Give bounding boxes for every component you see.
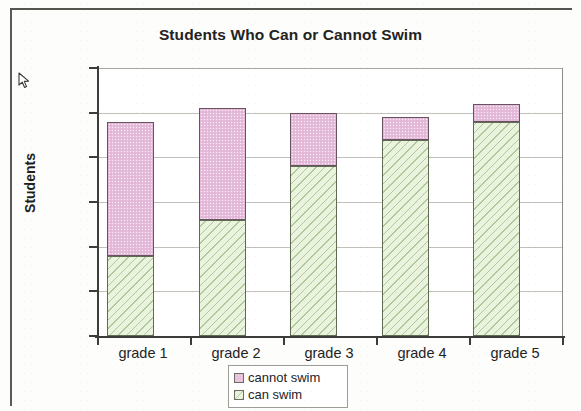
bar-segment-cannot-swim[interactable] [473,104,520,122]
y-tick-mark-30 [89,201,97,203]
bar-segment-can-swim[interactable] [290,166,337,336]
x-tick-mark-0 [97,338,99,345]
y-tick-mark-50 [89,112,97,114]
bar-segment-cannot-swim[interactable] [107,122,154,256]
x-tick-mark-5 [562,338,564,345]
chart-title: Students Who Can or Cannot Swim [0,26,581,44]
bar-grade-1[interactable] [107,122,154,336]
chart-legend: cannot swim can swim [228,365,348,408]
x-tick-mark-3 [376,338,378,345]
y-tick-mark-20 [89,246,97,248]
y-tick-mark-10 [89,290,97,292]
bar-segment-can-swim[interactable] [199,220,246,336]
plot-right-edge [562,68,563,336]
legend-item-can-swim[interactable]: can swim [234,386,342,403]
legend-label-cannot-swim: cannot swim [248,370,320,385]
x-tick-label-grade-5: grade 5 [460,345,570,361]
bar-segment-cannot-swim[interactable] [199,108,246,220]
scanned-page: Students Who Can or Cannot Swim [0,0,581,411]
x-tick-mark-4 [469,338,471,345]
x-tick-mark-1 [190,338,192,345]
bar-segment-cannot-swim[interactable] [382,117,429,139]
bar-segment-cannot-swim[interactable] [290,113,337,167]
x-tick-mark-2 [283,338,285,345]
y-tick-mark-60 [89,67,97,69]
legend-label-can-swim: can swim [248,387,302,402]
legend-swatch-can-swim-icon [234,390,244,400]
y-tick-mark-0 [89,335,97,337]
legend-swatch-cannot-swim-icon [234,373,244,383]
legend-item-cannot-swim[interactable]: cannot swim [234,369,342,386]
gridline-60 [97,68,563,69]
x-axis-line [95,336,565,338]
bar-grade-2[interactable] [199,108,246,336]
plot-area [97,68,563,336]
bar-segment-can-swim[interactable] [107,256,154,336]
bar-grade-3[interactable] [290,113,337,336]
stacked-bar-chart: Students Who Can or Cannot Swim [0,0,581,411]
bar-segment-can-swim[interactable] [382,140,429,337]
y-tick-mark-40 [89,156,97,158]
mouse-pointer-icon [18,72,31,89]
y-axis-title: Students [22,128,38,238]
y-axis-line [97,66,99,338]
bar-grade-5[interactable] [473,104,520,336]
bar-segment-can-swim[interactable] [473,122,520,336]
bar-grade-4[interactable] [382,117,429,336]
